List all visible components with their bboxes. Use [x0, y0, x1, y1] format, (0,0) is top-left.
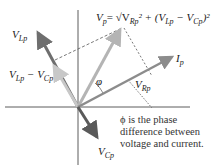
label-v-rp: VRp [135, 79, 151, 93]
label-v-lp-minus-v-cp: VLp − VCp [9, 69, 53, 83]
label-v-lp: VLp [12, 29, 27, 43]
label-v-p-formula: Vp= √VRp² + (VLp − VCp)² [96, 12, 210, 26]
annotation-line-3: voltage and current. [120, 138, 204, 150]
label-i-p: Ip [176, 53, 184, 67]
phase-annotation: ϕ is the phase difference between voltag… [120, 114, 204, 150]
v-cp-vector [78, 107, 97, 137]
label-v-cp: VCp [98, 146, 114, 160]
annotation-line-2: difference between [120, 126, 204, 138]
annotation-line-1: ϕ is the phase [120, 114, 204, 126]
label-phi: φ [96, 76, 102, 87]
v-lp-minus-v-cp-vector [54, 66, 78, 107]
